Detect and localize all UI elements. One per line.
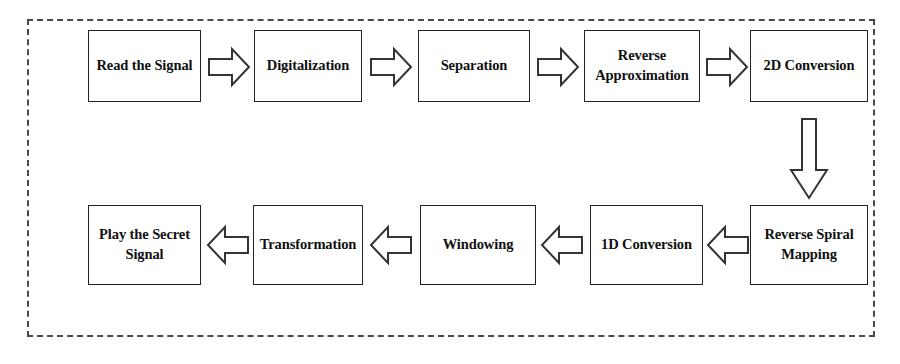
node-play-the-secret-signal[interactable]: Play the Secret Signal xyxy=(88,205,201,285)
arrow-digitalization-to-separation-icon xyxy=(370,47,412,87)
arrow-reverse-spiral-to-1d-conversion-icon xyxy=(707,225,749,265)
node-2d-conversion[interactable]: 2D Conversion xyxy=(750,30,868,102)
node-label: 2D Conversion xyxy=(764,56,855,76)
node-read-the-signal[interactable]: Read the Signal xyxy=(88,30,201,102)
arrow-windowing-to-transformation-icon xyxy=(370,225,412,265)
node-label: Read the Signal xyxy=(97,56,193,76)
node-digitalization[interactable]: Digitalization xyxy=(254,30,362,102)
node-transformation[interactable]: Transformation xyxy=(253,205,363,285)
node-label: Transformation xyxy=(260,235,357,255)
arrow-1d-conversion-to-windowing-icon xyxy=(541,225,583,265)
node-1d-conversion[interactable]: 1D Conversion xyxy=(590,205,703,285)
node-reverse-approximation[interactable]: Reverse Approximation xyxy=(584,30,700,102)
arrow-read-to-digitalization-icon xyxy=(208,47,250,87)
node-label: 1D Conversion xyxy=(601,235,692,255)
node-windowing[interactable]: Windowing xyxy=(420,205,536,285)
node-label: Reverse Spiral Mapping xyxy=(764,225,853,264)
arrow-reverse-approximation-to-2d-conversion-icon xyxy=(706,47,748,87)
arrow-2d-conversion-to-reverse-spiral-mapping-icon xyxy=(789,118,829,200)
node-separation[interactable]: Separation xyxy=(418,30,530,102)
node-label: Digitalization xyxy=(267,56,349,76)
arrow-separation-to-reverse-approximation-icon xyxy=(537,47,579,87)
arrow-transformation-to-play-the-secret-signal-icon xyxy=(207,225,249,265)
node-label: Play the Secret Signal xyxy=(99,225,190,264)
node-label: Windowing xyxy=(443,235,514,255)
flowchart-canvas: Read the Signal Digitalization Separatio… xyxy=(0,0,900,364)
node-reverse-spiral-mapping[interactable]: Reverse Spiral Mapping xyxy=(750,205,868,285)
node-label: Separation xyxy=(441,56,508,76)
node-label: Reverse Approximation xyxy=(595,46,689,85)
